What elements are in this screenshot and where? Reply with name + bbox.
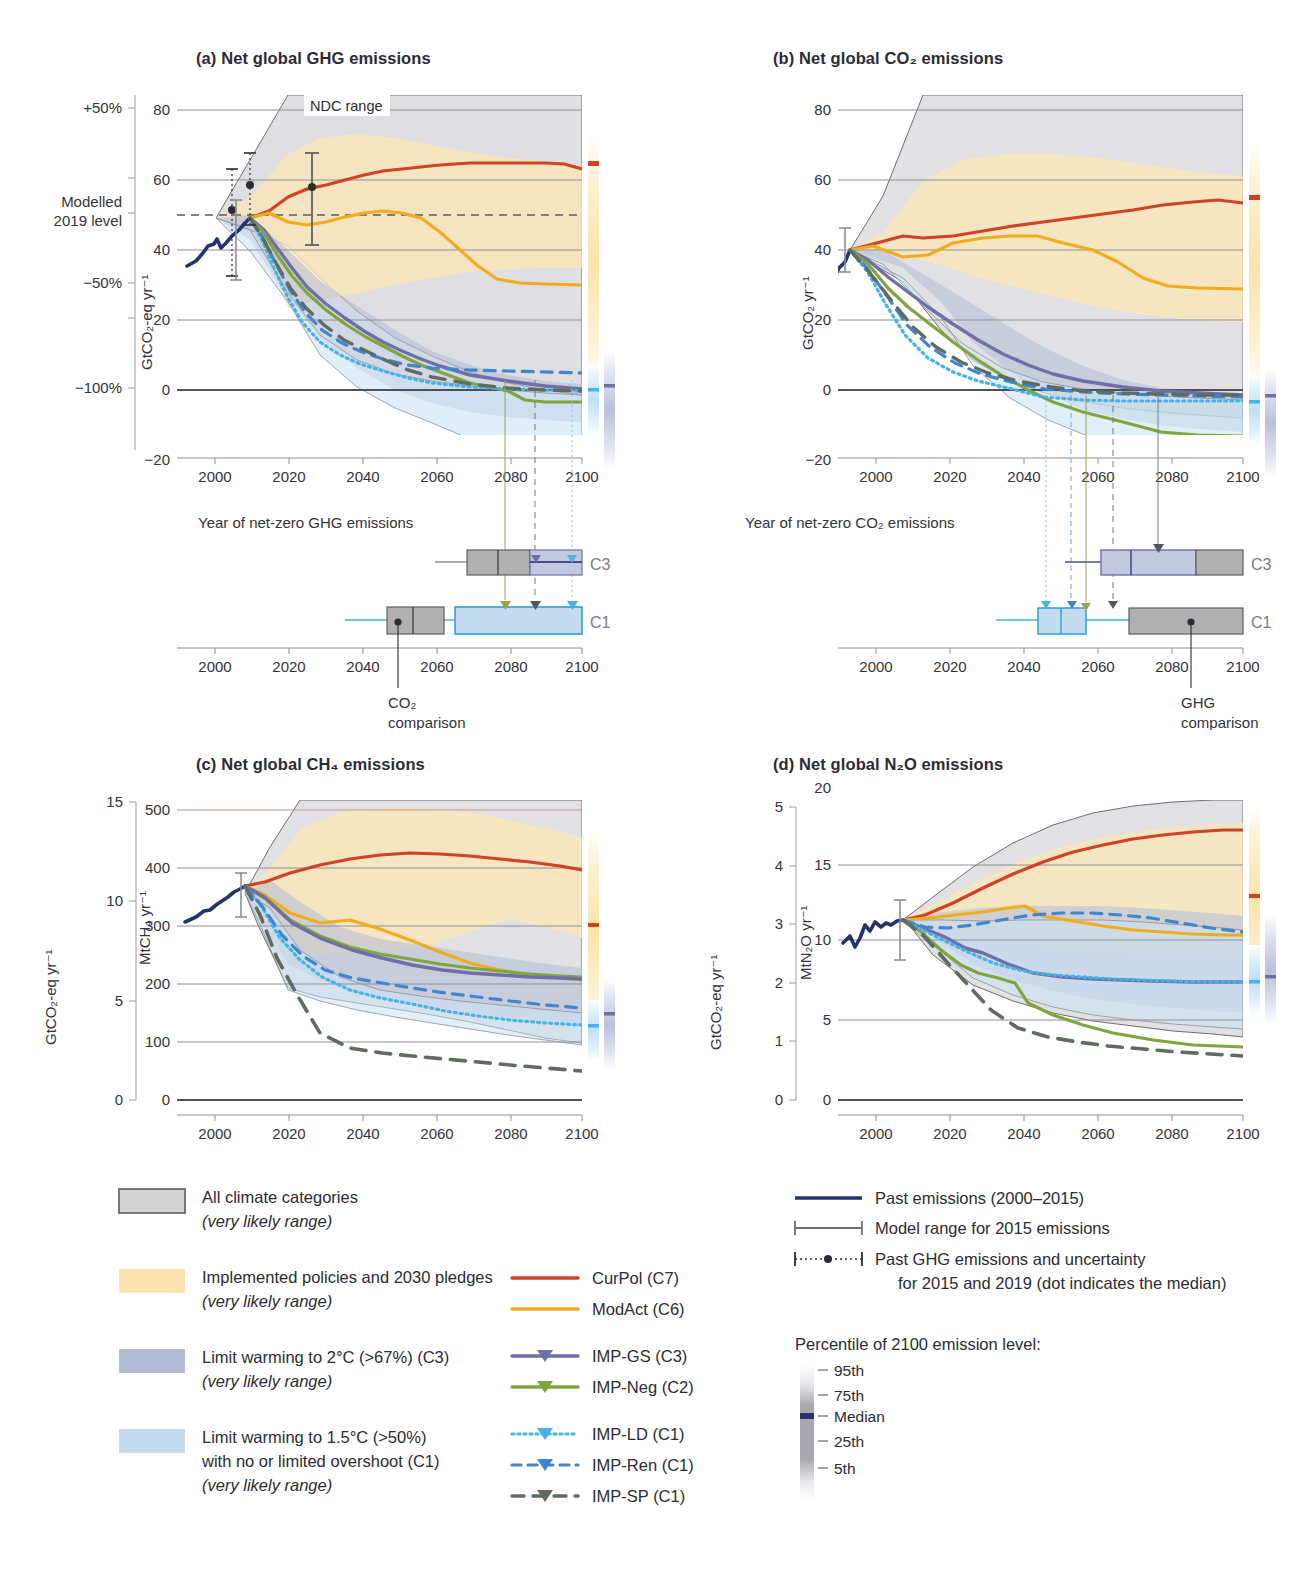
panel-b-ylabel: GtCO₂ yr⁻¹ [799, 276, 816, 350]
legend-scenario-1-label: ModAct (C6) [592, 1300, 685, 1318]
panel-d-ytickR-1: 15 [814, 856, 831, 873]
panel-d-ytickR-3: 5 [823, 1011, 831, 1028]
panel-b-bands [850, 95, 1243, 468]
panel-c-model-range [235, 873, 247, 917]
panel-c-xtick-1: 2020 [272, 1125, 305, 1142]
panel-d-ylabel-left: GtCO₂-eq yr⁻¹ [707, 955, 724, 1050]
panel-c-left-axis: 15 10 5 0 GtCO₂-eq yr⁻¹ [42, 793, 136, 1108]
panel-b-xtick-2: 2040 [1007, 468, 1040, 485]
panel-c-ytickR-5: 0 [162, 1091, 170, 1108]
legend-scenario-0-label: CurPol (C7) [592, 1269, 679, 1287]
panel-c-xtick-3: 2060 [420, 1125, 453, 1142]
panel-d-xtick-2: 2040 [1007, 1125, 1040, 1142]
panel-a-xtick-3: 2060 [420, 468, 453, 485]
panel-b-ytick-2: 40 [814, 241, 831, 258]
panel-d-chart: 5 4 3 2 1 0 GtCO₂-eq yr⁻¹ 20 15 10 5 0 [653, 775, 1306, 1175]
panel-c-ytickL-0: 15 [106, 793, 123, 810]
panel-d-model-range [894, 900, 906, 960]
panel-b-nz-xtick-1: 2020 [933, 658, 966, 675]
panel-d-title: (d) Net global N₂O emissions [773, 755, 1003, 774]
legend-percentile-title: Percentile of 2100 emission level: [795, 1335, 1041, 1353]
panel-a-nz-xtick-4: 2080 [494, 658, 527, 675]
legend-range-2-label: Limit warming to 2°C (>67%) (C3) [202, 1348, 449, 1366]
panel-c-ytickR-0: 500 [145, 801, 170, 818]
panel-d-xaxis: 2000 2020 2040 2060 2080 2100 [838, 1115, 1260, 1142]
panel-a-modelled-label-2: 2019 level [54, 212, 122, 229]
panel-b-nz-xtick-5: 2100 [1226, 658, 1259, 675]
panel-d-ytickL-2: 3 [775, 915, 783, 932]
panel-b-ytick-4: 0 [823, 381, 831, 398]
panel-d-ytickL-5: 0 [775, 1091, 783, 1108]
panel-a-percentile-strips [588, 135, 615, 470]
figure-legend: All climate categories (very likely rang… [0, 1160, 1306, 1584]
netzero-row-c1: C1 [345, 601, 611, 634]
legend-obs-2-label: Past GHG emissions and uncertainty [875, 1250, 1146, 1268]
legend-scenario-5-label: IMP-Ren (C1) [592, 1456, 694, 1474]
panel-a-percent-axis: +50% −50% −100% Modelled 2019 level [54, 95, 135, 450]
panel-c-ylabel-left: GtCO₂-eq yr⁻¹ [42, 950, 59, 1045]
panel-d-ytickR-2: 10 [814, 931, 831, 948]
legend-range-3-sub: (very likely range) [202, 1476, 332, 1494]
panel-d-ytickL-4: 1 [775, 1032, 783, 1049]
panel-b-ytick-0: 80 [814, 101, 831, 118]
panel-c-ytickR-4: 100 [145, 1033, 170, 1050]
panel-a-pct-tick-1: −50% [83, 274, 122, 291]
panel-b-nz-xtick-2: 2040 [1007, 658, 1040, 675]
panel-d-ytickR-4: 0 [823, 1091, 831, 1108]
panel-b-comparison-line1: GHG [1181, 694, 1215, 711]
legend-percentile-key: Percentile of 2100 emission level: 95th … [795, 1335, 1041, 1500]
panel-c-ytickL-1: 10 [106, 892, 123, 909]
panel-c-xtick-0: 2000 [198, 1125, 231, 1142]
panel-c-title: (c) Net global CH₄ emissions [196, 755, 425, 774]
panel-a-yaxis: 80 60 40 20 0 −20 GtCO₂-eq yr⁻¹ [138, 101, 170, 468]
panel-b-ytick-1: 60 [814, 171, 831, 188]
panel-d-ylabel-right: MtN₂O yr⁻¹ [797, 905, 814, 980]
panel-c-chart: 15 10 5 0 GtCO₂-eq yr⁻¹ 500 400 300 200 [0, 775, 660, 1175]
legend-obs-1-label: Model range for 2015 emissions [875, 1219, 1110, 1237]
panel-a-xtick-1: 2020 [272, 468, 305, 485]
percentile-bar [800, 1365, 814, 1500]
legend-range-2-sub: (very likely range) [202, 1372, 332, 1390]
panel-d-ytickL-0: 5 [775, 798, 783, 815]
panel-d-right-axis-labels: 20 15 10 5 0 MtN₂O yr⁻¹ [797, 779, 831, 1108]
legend-scenario-2-label: IMP-GS (C3) [592, 1347, 687, 1365]
legend-range-1-label: Implemented policies and 2030 pledges [202, 1268, 493, 1286]
percentile-item-2: Median [834, 1408, 885, 1425]
panel-c-ytickR-1: 400 [145, 859, 170, 876]
panel-a-xtick-2: 2040 [346, 468, 379, 485]
legend-scenarios: CurPol (C7) ModAct (C6) IMP-GS (C3) IMP-… [512, 1269, 694, 1505]
panel-a-nz-xtick-0: 2000 [198, 658, 231, 675]
panel-a-ylabel: GtCO₂-eq yr⁻¹ [138, 275, 155, 370]
legend-svg: All climate categories (very likely rang… [0, 1160, 1306, 1584]
panel-d-ytickR-0: 20 [814, 779, 831, 796]
netzero-c3-label: C3 [590, 556, 611, 573]
panel-d-ytickL-3: 2 [775, 974, 783, 991]
legend-range-3-label: Limit warming to 1.5°C (>50%) [202, 1428, 426, 1446]
panel-a-xtick-4: 2080 [494, 468, 527, 485]
panel-a-nz-xtick-5: 2100 [565, 658, 598, 675]
panel-d-xtick-3: 2060 [1081, 1125, 1114, 1142]
panel-a: (a) Net global GHG emissions [0, 0, 660, 730]
panel-b-comparison-line2: comparison [1181, 714, 1259, 730]
panel-b-netzero: Year of net-zero CO₂ emissions C3 [745, 395, 1272, 730]
legend-range-3-label2: with no or limited overshoot (C1) [201, 1452, 440, 1470]
panel-b-nz-xtick-3: 2060 [1081, 658, 1114, 675]
panel-a-modelled-label-1: Modelled [61, 193, 122, 210]
panel-b-chart: 80 60 40 20 0 −20 GtCO₂ yr⁻¹ [653, 50, 1306, 730]
panel-a-ytick-0: 80 [153, 101, 170, 118]
legend-range-0-label: All climate categories [202, 1188, 358, 1206]
panel-c-ytickL-2: 5 [115, 992, 123, 1009]
legend-observations: Past emissions (2000–2015) Model range f… [795, 1189, 1226, 1292]
panel-c-xtick-5: 2100 [565, 1125, 598, 1142]
legend-obs-2-label2: for 2015 and 2019 (dot indicates the med… [898, 1274, 1226, 1292]
panel-d-percentile-strips [1249, 805, 1276, 1025]
legend-range-1-sub: (very likely range) [202, 1292, 332, 1310]
panel-a-ytick-5: −20 [145, 451, 170, 468]
series-past-emissions [787, 250, 850, 314]
panel-b-yaxis: 80 60 40 20 0 −20 GtCO₂ yr⁻¹ [799, 101, 831, 468]
panel-b-xtick-1: 2020 [933, 468, 966, 485]
netzero-c3-label: C3 [1251, 556, 1272, 573]
percentile-item-0: 95th [834, 1362, 864, 1379]
panel-c-right-axis-labels: 500 400 300 200 100 0 MtCH₄ yr⁻¹ [136, 801, 170, 1108]
panel-a-nz-xtick-3: 2060 [420, 658, 453, 675]
